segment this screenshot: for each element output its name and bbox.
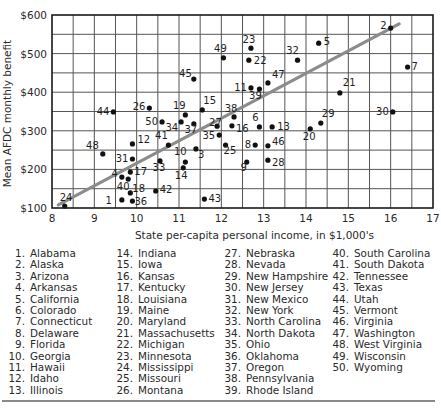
data-point-35: 35 [202,130,221,141]
point-label: 49 [214,43,227,54]
y-tick-label: $300 [20,125,47,137]
data-point-3: 3 [193,146,204,160]
legend-state-name: Arizona [30,270,69,282]
point-label: 14 [175,170,188,181]
legend-state-name: Minnesota [138,350,192,362]
legend-state-name: Massachusetts [138,327,215,339]
point-label: 11 [234,82,247,93]
legend-state-name: Idaho [30,372,59,384]
scatter-chart: $100$200$300$400$500$600 891011121314151… [0,0,441,248]
legend-state-name: Nebraska [246,247,295,259]
legend-state-name: Florida [30,338,65,350]
point-label: 8 [245,139,251,150]
legend-state-name: North Dakota [246,327,315,339]
y-tick-label: $500 [20,48,47,60]
legend-state-name: Louisiana [138,293,187,305]
legend-state-name: Virginia [354,315,393,327]
point-marker [119,175,124,180]
point-label: 23 [243,34,256,45]
point-label: 32 [286,45,299,56]
y-axis-title: Mean AFDC monthly benefit [1,40,13,187]
point-marker [200,107,205,112]
point-label: 36 [134,196,147,207]
data-point-45: 45 [179,68,196,82]
legend-column: 40.South Carolina41.South Dakota42.Tenne… [330,248,430,373]
point-label: 26 [133,101,146,112]
point-marker [265,80,270,85]
data-point-43: 43 [202,193,221,204]
legend-state-name: New Jersey [246,281,304,293]
x-tick-label: 17 [426,212,439,224]
legend-state-name: Montana [138,384,183,396]
y-axis-ticks: $100$200$300$400$500$600 [20,9,47,214]
point-marker [248,46,253,51]
point-label: 22 [254,55,267,66]
point-label: 7 [412,61,418,72]
point-marker [100,151,105,156]
point-label: 47 [272,69,285,80]
point-marker [388,26,393,31]
point-label: 30 [376,106,389,117]
legend-state-name: New York [246,304,294,316]
legend-item: 50.Wyoming [330,362,430,373]
legend-state-name: Tennessee [354,270,408,282]
legend-state-name: Kansas [138,270,175,282]
legend-state-name: Illinois [30,384,63,396]
y-tick-label: $600 [20,9,47,21]
point-marker [221,55,226,60]
data-point-12: 12 [130,134,150,147]
data-point-32: 32 [286,45,300,63]
point-marker [257,124,262,129]
legend-item: 39.Rhode Island [222,385,328,396]
x-tick-label: 16 [384,212,398,224]
legend-number: 26. [114,385,133,396]
point-label: 21 [343,77,356,88]
y-tick-label: $100 [20,202,47,214]
legend-state-name: Iowa [138,258,162,270]
legend-state-name: Maine [138,304,169,316]
data-point-44: 44 [97,106,116,117]
legend-state-name: Washington [354,327,415,339]
legend-state-name: Michigan [138,338,185,350]
data-point-33: 33 [153,158,166,173]
point-label: 35 [202,130,215,141]
legend-state-name: New Mexico [246,293,308,305]
point-label: 46 [272,136,285,147]
legend-item: 43.Texas [330,282,430,293]
legend-number: 4. [6,282,25,293]
point-label: 10 [174,146,187,157]
point-label: 28 [272,157,285,168]
point-marker [390,109,395,114]
point-marker [111,109,116,114]
legend-number: 35. [222,339,241,350]
data-point-24: 24 [60,192,73,209]
point-marker [229,123,234,128]
legend-state-name: Georgia [30,350,71,362]
data-point-13: 13 [270,121,290,132]
point-label: 33 [153,162,166,173]
bottom-divider [2,400,435,402]
data-point-47: 47 [265,69,284,86]
state-legend: 1.Alabama2.Alaska3.Arizona4.Arkansas5.Ca… [6,248,436,398]
point-marker [166,142,171,147]
data-point-1: 1 [105,195,124,206]
point-marker [295,58,300,63]
data-point-20: 20 [303,126,316,142]
point-marker [270,124,275,129]
point-marker [318,120,323,125]
data-point-9: 9 [241,159,250,173]
legend-state-name: Indiana [138,247,176,259]
point-label: 45 [179,68,192,79]
data-point-37: 37 [184,121,197,135]
point-marker [405,65,410,70]
data-point-28: 28 [265,157,284,168]
point-label: 37 [184,124,197,135]
data-point-10: 10 [174,146,188,165]
point-marker [130,156,135,161]
x-tick-label: 13 [257,212,270,224]
legend-number: 13. [6,385,25,396]
point-label: 38 [225,103,238,114]
data-point-50: 50 [145,116,164,127]
y-tick-label: $200 [20,163,47,175]
legend-number: 30. [222,282,241,293]
